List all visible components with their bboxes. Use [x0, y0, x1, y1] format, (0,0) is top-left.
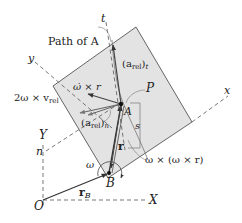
- path-of-a-label: Path of A: [48, 35, 100, 48]
- y-axis-label: y: [27, 52, 35, 65]
- origin-label: O: [34, 199, 44, 213]
- point-p-label: P: [145, 81, 155, 95]
- t-axis-label: t: [101, 12, 106, 25]
- centripetal-label: ω × (ω × r): [145, 154, 203, 165]
- point-a-label: A: [123, 105, 132, 118]
- r-vector-label: r: [118, 140, 124, 153]
- X-axis-label: X: [148, 193, 158, 207]
- Y-axis-label: Y: [39, 128, 48, 142]
- x-axis-line: [192, 96, 228, 122]
- path-of-a-leader: [98, 27, 111, 42]
- point-b-dot: [107, 171, 111, 175]
- n-axis-label: n: [36, 145, 43, 158]
- kinematics-diagram: Path of A t y x n Y X O A B P s ω̇ × r 2…: [0, 0, 242, 223]
- omega-dot-cross-r-label: ω̇ × r: [73, 81, 102, 92]
- coriolis-label: 2ω × vrel: [14, 92, 59, 105]
- x-axis-label: x: [224, 84, 231, 97]
- rB-vector: [43, 174, 107, 200]
- point-a-dot: [119, 102, 123, 106]
- point-b-label: B: [105, 176, 115, 190]
- omega-label: ω: [86, 159, 94, 170]
- rB-label: rB: [79, 186, 91, 200]
- s-label: s: [135, 120, 140, 131]
